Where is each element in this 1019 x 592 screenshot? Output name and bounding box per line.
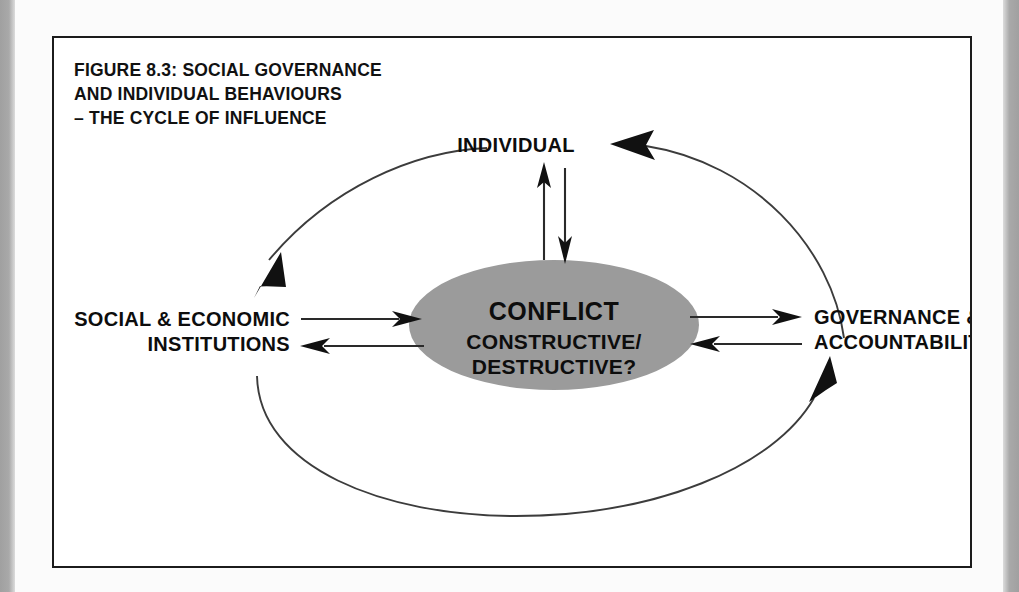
node-social-economic-institutions: SOCIAL & ECONOMIC INSTITUTIONS (74, 308, 290, 355)
node-governance-accountability: GOVERNANCE & ACCOUNTABILITY (814, 306, 970, 353)
node-left-label-line-2: INSTITUTIONS (148, 333, 291, 355)
figure-frame: FIGURE 8.3: SOCIAL GOVERNANCE AND INDIVI… (52, 36, 972, 568)
figure-page: FIGURE 8.3: SOCIAL GOVERNANCE AND INDIVI… (0, 0, 1019, 592)
cycle-arc-left-top-path (269, 148, 487, 260)
node-individual-label: INDIVIDUAL (457, 134, 574, 156)
figure-title-line-3: – THE CYCLE OF INFLUENCE (74, 108, 327, 128)
flow-left-conflict (300, 311, 424, 354)
node-left-label-line-1: SOCIAL & ECONOMIC (74, 308, 290, 330)
conflict-core-subtitle-1: CONSTRUCTIVE/ (466, 330, 641, 353)
conflict-core: CONFLICT CONSTRUCTIVE/ DESTRUCTIVE? (409, 260, 699, 390)
page-margin-right (1003, 0, 1019, 592)
cycle-arc-bottom-path (257, 376, 814, 516)
flow-individual-conflict (537, 162, 572, 264)
cycle-arrow-up-right-icon (809, 356, 837, 402)
node-right-label-line-2: ACCOUNTABILITY (814, 331, 970, 353)
cycle-of-influence-diagram: FIGURE 8.3: SOCIAL GOVERNANCE AND INDIVI… (54, 38, 970, 566)
figure-title-line-1: FIGURE 8.3: SOCIAL GOVERNANCE (74, 60, 382, 80)
figure-title-line-2: AND INDIVIDUAL BEHAVIOURS (74, 84, 342, 104)
conflict-core-title: CONFLICT (489, 297, 619, 325)
node-individual: INDIVIDUAL (457, 134, 574, 156)
cycle-arc-left-top (254, 148, 487, 298)
figure-title: FIGURE 8.3: SOCIAL GOVERNANCE AND INDIVI… (74, 60, 382, 128)
conflict-core-subtitle-2: DESTRUCTIVE? (472, 355, 637, 378)
node-right-label-line-1: GOVERNANCE & (814, 306, 970, 328)
page-margin-left (0, 0, 15, 592)
flow-right-conflict (690, 309, 802, 352)
cycle-arrow-left-icon (610, 130, 655, 160)
